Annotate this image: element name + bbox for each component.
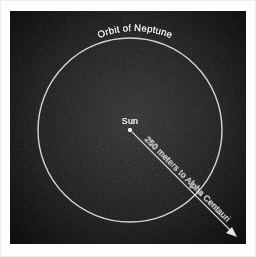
alpha-centauri-arrow — [132, 132, 237, 237]
distance-label: 250 meters to Alpha Centauri — [143, 134, 233, 224]
orbit-label-textpath: Orbit of Neptune — [96, 22, 174, 40]
orbit-label: Orbit of Neptune — [96, 22, 174, 40]
figure-stage: Orbit of Neptune Sun 250 meters to Alpha… — [0, 0, 256, 257]
diagram-artwork: Orbit of Neptune Sun 250 meters to Alpha… — [10, 11, 246, 244]
sun-dot-icon — [128, 128, 132, 132]
arrowhead-icon — [226, 227, 237, 237]
sun-label: Sun — [122, 116, 138, 126]
chalkboard-panel: Orbit of Neptune Sun 250 meters to Alpha… — [10, 11, 246, 244]
